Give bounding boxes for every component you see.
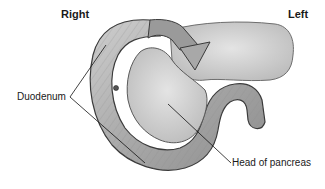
head-of-pancreas-label: Head of pancreas bbox=[232, 157, 311, 168]
orientation-left-label: Left bbox=[288, 8, 308, 20]
duodenum-label: Duodenum bbox=[17, 91, 66, 102]
papilla bbox=[114, 86, 119, 91]
orientation-right-label: Right bbox=[61, 8, 89, 20]
